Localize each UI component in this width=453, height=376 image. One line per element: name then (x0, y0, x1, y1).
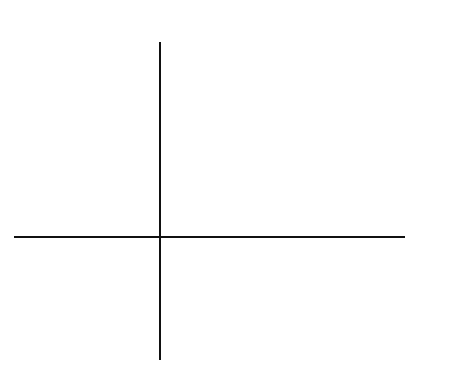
coordinate-grid-figure (0, 0, 453, 376)
grid-svg (0, 0, 453, 376)
